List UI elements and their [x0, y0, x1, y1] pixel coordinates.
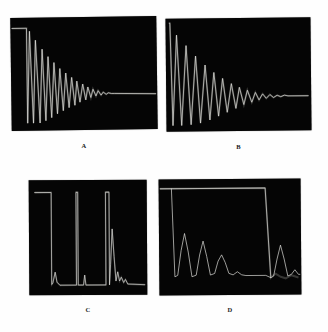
panel-label-a: A [11, 142, 157, 150]
scope-screen-a [10, 16, 157, 131]
panel-b [165, 17, 311, 131]
trace-b [165, 17, 311, 131]
panel-d [159, 178, 302, 295]
scope-screen-d [159, 178, 302, 295]
trace-a [10, 16, 157, 131]
scope-screen-b [165, 17, 311, 131]
figure-oscilloscope-panels: A B C D [0, 0, 328, 332]
panel-label-b: B [166, 143, 311, 151]
trace-d [159, 178, 302, 295]
panel-a [10, 16, 157, 131]
trace-c [29, 180, 148, 296]
panel-c [29, 180, 148, 296]
scope-screen-c [29, 180, 148, 296]
panel-label-c: C [29, 306, 147, 314]
panel-label-d: D [159, 306, 301, 314]
